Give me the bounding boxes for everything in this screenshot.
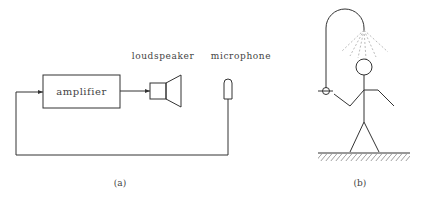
- loudspeaker-icon: [150, 75, 181, 107]
- microphone-icon: [224, 79, 232, 99]
- feedback-wire: [16, 92, 228, 155]
- arrowhead-icon: [38, 90, 43, 94]
- caption-a: (a): [114, 178, 126, 188]
- ground: [318, 153, 410, 161]
- panel-b: (b): [318, 9, 410, 188]
- figure: amplifier loudspeaker microphone (a): [0, 0, 424, 197]
- person-figure: [334, 59, 394, 152]
- water-spray-icon: [341, 30, 388, 59]
- head: [356, 59, 372, 75]
- loudspeaker-label: loudspeaker: [132, 51, 195, 61]
- microphone-label: microphone: [211, 51, 271, 61]
- amplifier-label: amplifier: [56, 86, 106, 97]
- arrowhead-icon: [145, 89, 150, 93]
- caption-b: (b): [354, 178, 367, 188]
- panel-a: amplifier loudspeaker microphone (a): [16, 51, 271, 188]
- shower-pipe: [326, 9, 364, 88]
